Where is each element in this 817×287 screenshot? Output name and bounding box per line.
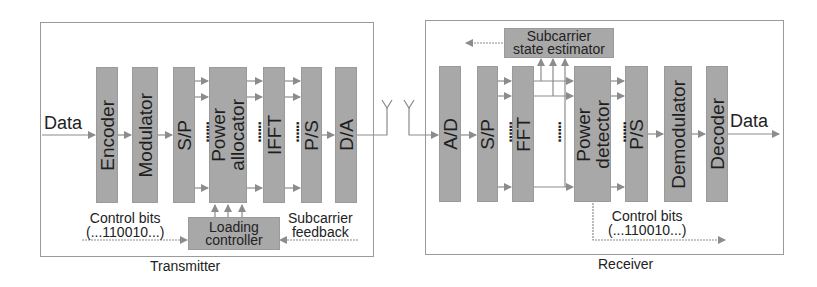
signal-wires: [0, 0, 817, 287]
ad-block: A/D: [439, 66, 461, 202]
demodulator-label: Demodulator: [669, 80, 688, 189]
rx-sp-block: S/P: [477, 66, 498, 202]
power-allocator-label: Power allocator: [209, 99, 247, 171]
da-block: D/A: [335, 67, 357, 203]
power-allocator-block: Power allocator: [209, 67, 247, 203]
decoder-block: Decoder: [706, 66, 728, 202]
power-detector-label: Power detector: [574, 100, 612, 169]
loading-controller-block: Loading controller: [188, 217, 280, 250]
tx-dots-2: ......: [246, 122, 265, 143]
tx-control-bits-label: Control bits (...110010...): [86, 211, 164, 239]
tx-dots-1: ......: [194, 122, 213, 143]
tx-ps-block: P/S: [301, 67, 322, 203]
tx-sp-label: S/P: [175, 120, 194, 151]
ifft-block: IFFT: [263, 67, 285, 203]
tx-sp-block: S/P: [173, 67, 195, 203]
rx-data-output-label: Data: [730, 114, 768, 128]
transmitter-caption: Transmitter: [150, 259, 220, 273]
encoder-label: Encoder: [98, 100, 117, 171]
decoder-label: Decoder: [708, 98, 727, 170]
loading-controller-label: Loading controller: [205, 221, 263, 247]
fft-label: FFT: [514, 117, 533, 152]
rx-dots-2: ......: [546, 122, 565, 143]
subcarrier-state-estimator-label: Subcarrier state estimator: [513, 30, 605, 56]
modulator-label: Modulator: [136, 93, 155, 178]
modulator-block: Modulator: [132, 67, 158, 203]
subcarrier-state-estimator-block: Subcarrier state estimator: [504, 28, 614, 58]
tx-ps-label: P/S: [302, 120, 321, 151]
encoder-block: Encoder: [96, 67, 118, 203]
da-label: D/A: [337, 119, 356, 151]
ifft-label: IFFT: [265, 115, 284, 155]
receiver-caption: Receiver: [598, 257, 653, 271]
subcarrier-feedback-label: Subcarrier feedback: [288, 211, 353, 239]
power-detector-block: Power detector: [574, 66, 611, 202]
demodulator-block: Demodulator: [664, 66, 692, 202]
rx-sp-label: S/P: [478, 119, 497, 150]
rx-dots-3: ......: [611, 122, 630, 143]
rx-control-bits-label: Control bits (...110010...): [608, 209, 686, 237]
tx-dots-3: ......: [284, 122, 303, 143]
tx-data-input-label: Data: [44, 116, 82, 130]
rx-dots-1: ......: [497, 122, 516, 143]
ad-label: A/D: [441, 118, 460, 150]
